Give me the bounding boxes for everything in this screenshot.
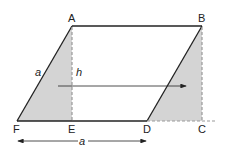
label-base-a: a [79,135,85,147]
label-point-f: F [13,123,20,135]
label-point-b: B [198,12,205,24]
parallelogram-diagram: A B F E D C a h a [0,0,228,148]
label-height-h: h [76,66,82,78]
label-point-c: C [198,123,206,135]
label-point-a: A [68,12,76,24]
label-point-d: D [143,123,151,135]
label-side-a: a [35,66,41,78]
label-point-e: E [68,123,75,135]
